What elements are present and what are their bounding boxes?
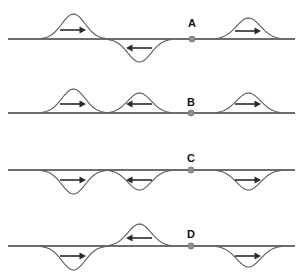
arrow-head-icon — [255, 101, 262, 108]
arrow-head-icon — [126, 45, 133, 52]
pulse-a-2 — [108, 40, 171, 62]
pulse-b-2-direction-arrow-left — [126, 101, 152, 108]
pulse-a-3 — [216, 18, 281, 38]
arrow-head-icon — [80, 177, 87, 184]
pulse-d-3-direction-arrow-right — [235, 253, 261, 260]
pulse-d-2 — [108, 224, 171, 245]
pulse-d-1 — [42, 247, 105, 270]
pulse-c-1 — [42, 171, 105, 194]
pulse-b-2 — [108, 93, 171, 112]
wave-row-a: A — [8, 14, 295, 62]
pulse-c-2-direction-arrow-left — [126, 177, 152, 184]
arrow-head-icon — [126, 235, 133, 242]
point-d-dot — [188, 243, 194, 249]
pulse-c-1-direction-arrow-right — [60, 177, 86, 184]
pulse-c-3-direction-arrow-right — [235, 177, 261, 184]
arrow-head-icon — [126, 177, 133, 184]
pulse-d-2-direction-arrow-left — [126, 235, 152, 242]
row-label-a: A — [188, 17, 196, 29]
pulse-b-3 — [216, 93, 281, 112]
wave-pulse-diagram: ABCD — [0, 0, 302, 272]
point-a-dot — [189, 36, 195, 42]
arrow-head-icon — [255, 253, 262, 260]
arrow-head-icon — [80, 101, 87, 108]
pulse-a-2-direction-arrow-left — [126, 45, 152, 52]
arrow-head-icon — [80, 27, 87, 34]
wave-row-c: C — [8, 152, 295, 194]
pulse-b-3-direction-arrow-right — [235, 101, 261, 108]
arrow-head-icon — [255, 28, 262, 35]
point-c-dot — [188, 167, 194, 173]
wave-row-b: B — [8, 89, 295, 116]
row-label-b: B — [187, 96, 195, 108]
row-label-d: D — [187, 228, 195, 240]
wave-row-d: D — [8, 224, 295, 270]
pulse-b-1-direction-arrow-right — [60, 101, 86, 108]
pulse-a-1 — [42, 14, 105, 38]
pulse-a-3-direction-arrow-right — [235, 28, 261, 35]
pulse-a-1-direction-arrow-right — [60, 27, 86, 34]
pulse-d-1-direction-arrow-right — [60, 253, 86, 260]
point-b-dot — [188, 110, 194, 116]
row-label-c: C — [187, 152, 195, 164]
pulse-b-1 — [42, 89, 105, 112]
arrow-head-icon — [80, 253, 87, 260]
